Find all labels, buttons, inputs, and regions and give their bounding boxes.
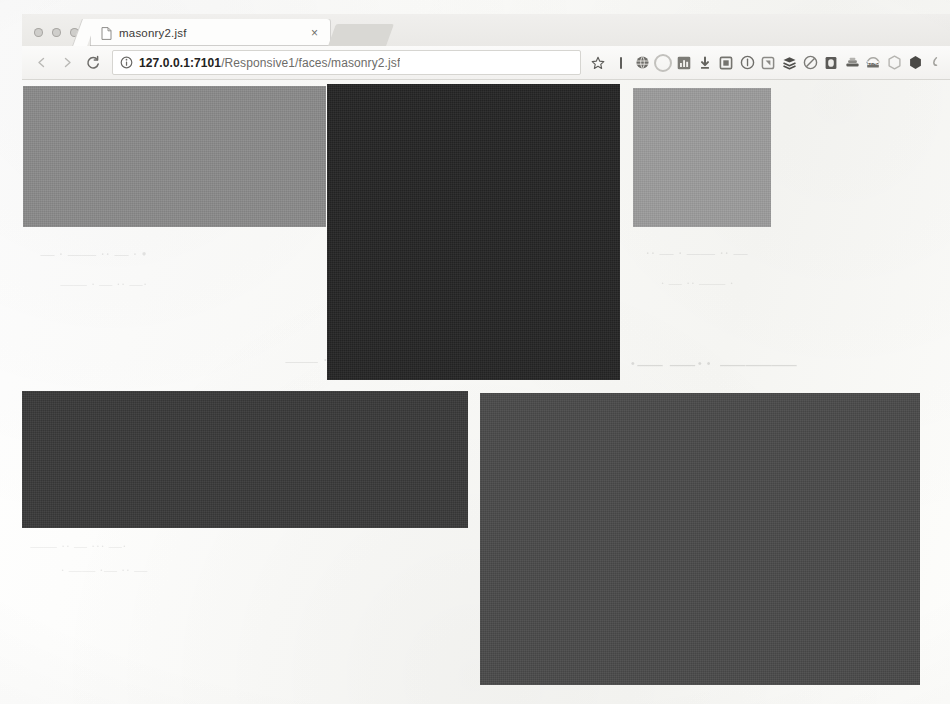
extension-book-icon[interactable]	[821, 53, 841, 73]
url-path: /Responsive1/faces/masonry2.jsf	[221, 56, 400, 70]
extension-globe-icon[interactable]	[632, 53, 652, 73]
tab-masonry2[interactable]: masonry2.jsf ×	[90, 19, 331, 46]
reload-icon[interactable]	[80, 50, 106, 76]
extension-badge-text: 17:45	[867, 61, 880, 67]
scanned-screenshot-page: • · — ·· —— · — ·— ·· — · —— — ·· —— · —…	[0, 0, 950, 704]
close-icon[interactable]: ×	[297, 27, 325, 39]
tab-title: masonry2.jsf	[119, 27, 297, 39]
extension-chart-icon[interactable]	[674, 53, 694, 73]
new-tab-button[interactable]	[328, 24, 394, 46]
extension-note-icon[interactable]	[758, 53, 778, 73]
extension-stack-icon[interactable]	[842, 53, 862, 73]
masonry-tile-3[interactable]	[633, 88, 771, 227]
window-minimize-button[interactable]	[52, 28, 61, 37]
url-host: 127.0.0.1:7101	[139, 56, 221, 70]
tab-strip: masonry2.jsf ×	[22, 14, 950, 46]
extension-circle-icon[interactable]	[653, 53, 673, 73]
extension-hex-light-icon[interactable]	[884, 53, 904, 73]
chrome-browser-window: masonry2.jsf ×	[0, 0, 950, 704]
extension-time-badge-icon[interactable]: 17:45	[863, 53, 883, 73]
info-circle-icon[interactable]	[120, 56, 133, 69]
masonry-tile-2[interactable]	[327, 84, 620, 380]
masonry-tile-1[interactable]	[23, 86, 326, 227]
extension-hex-dark-icon[interactable]	[905, 53, 925, 73]
window-close-button[interactable]	[34, 28, 43, 37]
masonry-tile-5[interactable]	[480, 393, 920, 685]
address-bar[interactable]: 127.0.0.1:7101/Responsive1/faces/masonry…	[112, 50, 581, 75]
page-viewport	[22, 79, 950, 704]
extension-info-icon[interactable]	[737, 53, 757, 73]
extension-download-icon[interactable]	[695, 53, 715, 73]
star-icon[interactable]	[587, 52, 609, 74]
extension-toolbar: 17:45	[611, 53, 950, 73]
extension-partial-icon[interactable]	[926, 53, 946, 73]
address-bar-url: 127.0.0.1:7101/Responsive1/faces/masonry…	[139, 56, 400, 70]
navigation-toolbar: 127.0.0.1:7101/Responsive1/faces/masonry…	[22, 46, 950, 80]
extension-bar-icon[interactable]	[611, 53, 631, 73]
back-arrow-icon[interactable]	[28, 50, 54, 76]
extension-block-icon[interactable]	[800, 53, 820, 73]
page-icon	[101, 26, 112, 39]
extension-square-icon[interactable]	[716, 53, 736, 73]
masonry-tile-4[interactable]	[22, 391, 468, 528]
extension-layers-icon[interactable]	[779, 53, 799, 73]
forward-arrow-icon[interactable]	[54, 50, 80, 76]
